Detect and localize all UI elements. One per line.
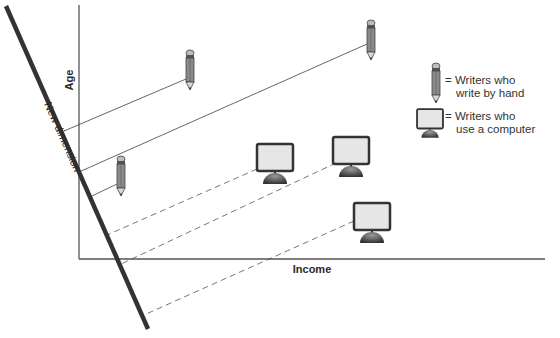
y-axis-label: Age	[63, 70, 75, 91]
pencil-icon	[186, 50, 194, 90]
legend-pencil-icon	[432, 63, 440, 103]
computer-projection-lines	[107, 163, 354, 315]
pencil-icon	[117, 156, 125, 196]
computer-icon	[257, 144, 293, 184]
legend-computer-icon	[417, 109, 443, 138]
legend-hand-line2: write by hand	[445, 87, 524, 100]
legend-hand-line1: = Writers who	[445, 74, 524, 87]
pencil-icon	[367, 20, 375, 60]
legend-item-computer: = Writers who use a computer	[445, 110, 535, 136]
hand-projection-lines	[64, 44, 367, 196]
legend-item-hand: = Writers who write by hand	[445, 74, 524, 100]
x-axis-label: Income	[293, 263, 332, 275]
diagram-canvas: Age Income New dimension	[0, 0, 560, 338]
new-dimension-label: New dimension	[42, 100, 84, 174]
legend-computer-line2: use a computer	[445, 123, 535, 136]
legend-computer-line1: = Writers who	[445, 110, 535, 123]
computer-icon	[354, 203, 390, 243]
computer-icon	[333, 137, 369, 177]
